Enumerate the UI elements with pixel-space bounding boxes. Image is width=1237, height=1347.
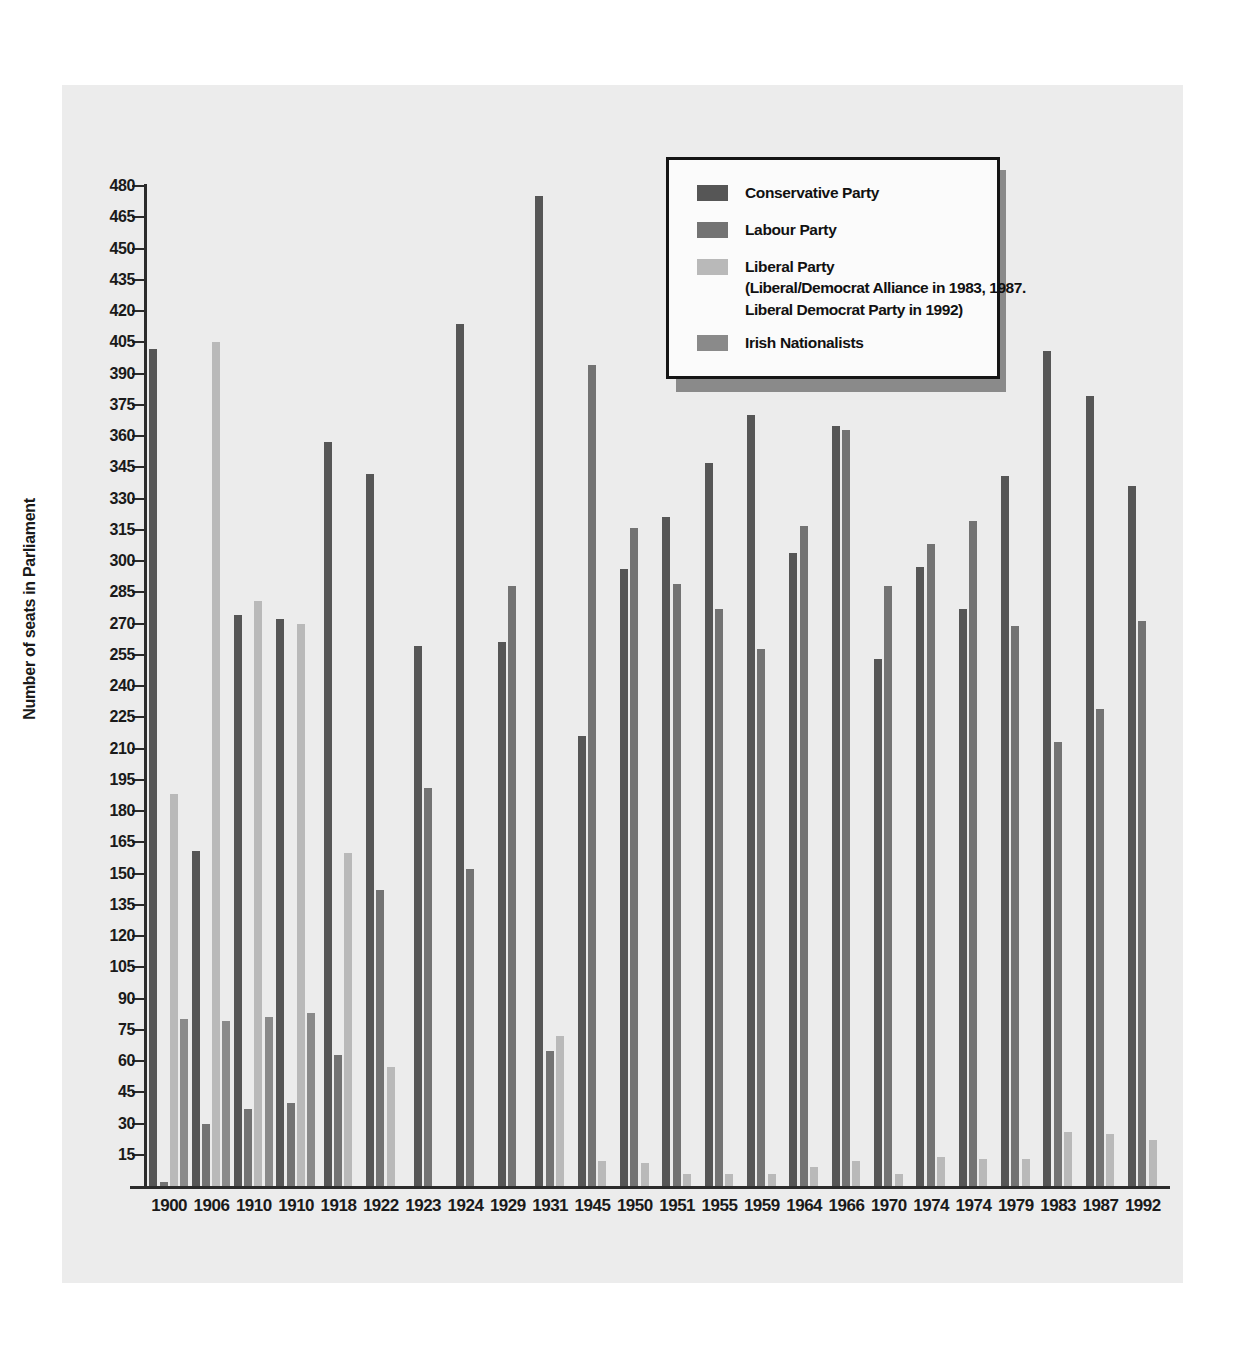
y-tick-label: 120	[110, 927, 136, 945]
bar-conservative-1950	[620, 569, 628, 1186]
y-tick-label: 300	[110, 552, 136, 570]
legend-label-labour: Labour Party	[745, 219, 836, 240]
bar-conservative-1959	[747, 415, 755, 1186]
bar-labour-1924	[466, 869, 474, 1186]
bar-labour-1983	[1054, 742, 1062, 1186]
x-tick-label: 1931	[532, 1196, 568, 1216]
bar-liberal-1918	[344, 853, 352, 1186]
bar-conservative-1918	[324, 442, 332, 1186]
bar-liberal-1945	[598, 1161, 606, 1186]
y-tick-label: 60	[118, 1052, 135, 1070]
x-tick-label: 1959	[744, 1196, 780, 1216]
legend-swatch-conservative-icon	[697, 185, 728, 201]
bar-liberal-1950	[641, 1163, 649, 1186]
bar-labour-1950	[630, 528, 638, 1186]
bar-liberal-1974	[937, 1157, 945, 1186]
bar-labour-1918	[334, 1055, 342, 1186]
x-tick-label: 1970	[871, 1196, 907, 1216]
bar-conservative-1929	[498, 642, 506, 1186]
x-tick-label: 1983	[1040, 1196, 1076, 1216]
legend-item-irish-nationalists[interactable]: Irish Nationalists	[697, 332, 864, 353]
bar-irish-1910	[307, 1013, 315, 1186]
y-tick-label: 450	[110, 240, 136, 258]
bar-liberal-1964	[810, 1167, 818, 1186]
bar-conservative-1983	[1043, 351, 1051, 1186]
x-tick-label: 1945	[575, 1196, 611, 1216]
x-tick-label: 1955	[702, 1196, 738, 1216]
x-tick-label: 1910	[278, 1196, 314, 1216]
bar-irish-1900	[180, 1019, 188, 1186]
bar-conservative-1910	[234, 615, 242, 1186]
y-tick-label: 315	[110, 521, 136, 539]
x-tick-label: 1974	[956, 1196, 992, 1216]
bar-labour-1906	[202, 1124, 210, 1187]
y-tick-label: 405	[110, 333, 136, 351]
y-tick-label: 30	[118, 1115, 135, 1133]
y-tick-label: 180	[110, 802, 136, 820]
legend-label-liberal: Liberal Party	[745, 256, 1026, 277]
bar-liberal-1910	[297, 624, 305, 1187]
bar-liberal-1959	[768, 1174, 776, 1187]
bar-labour-1974	[969, 521, 977, 1186]
legend-note-liberal-line2: Liberal Democrat Party in 1992)	[745, 299, 1026, 320]
bar-labour-1951	[673, 584, 681, 1186]
legend-item-liberal[interactable]: Liberal Party (Liberal/Democrat Alliance…	[697, 256, 1026, 320]
y-tick-label: 135	[110, 896, 136, 914]
y-tick-label: 270	[110, 615, 136, 633]
bar-liberal-1966	[852, 1161, 860, 1186]
x-tick-label: 1964	[786, 1196, 822, 1216]
bar-labour-1974	[927, 544, 935, 1186]
bar-labour-1923	[424, 788, 432, 1186]
x-tick-label: 1906	[194, 1196, 230, 1216]
bar-liberal-1970	[895, 1174, 903, 1187]
bar-liberal-1983	[1064, 1132, 1072, 1186]
bar-conservative-1951	[662, 517, 670, 1186]
y-tick-label: 90	[118, 990, 135, 1008]
y-tick-label: 480	[110, 177, 136, 195]
chart-page: Number of seats in Parliament 4804654504…	[0, 0, 1237, 1347]
chart-legend: Conservative Party Labour Party Liberal …	[666, 157, 1000, 379]
y-tick-label: 240	[110, 677, 136, 695]
bar-liberal-1979	[1022, 1159, 1030, 1186]
y-tick-label: 165	[110, 833, 136, 851]
y-tick-label: 150	[110, 865, 136, 883]
bar-labour-1970	[884, 586, 892, 1186]
bar-conservative-1910	[276, 619, 284, 1186]
bar-liberal-1955	[725, 1174, 733, 1187]
bar-labour-1910	[244, 1109, 252, 1186]
y-tick-label: 105	[110, 958, 136, 976]
bar-liberal-1922	[387, 1067, 395, 1186]
bar-liberal-1900	[170, 794, 178, 1186]
y-tick-label: 420	[110, 302, 136, 320]
x-tick-label: 1929	[490, 1196, 526, 1216]
x-tick-label: 1900	[151, 1196, 187, 1216]
y-tick-label: 75	[118, 1021, 135, 1039]
bar-labour-1931	[546, 1051, 554, 1186]
bar-liberal-1906	[212, 342, 220, 1186]
bar-conservative-1974	[916, 567, 924, 1186]
bar-liberal-1951	[683, 1174, 691, 1187]
legend-label-irish-nationalists: Irish Nationalists	[745, 332, 864, 353]
bar-conservative-1900	[149, 349, 157, 1187]
bar-conservative-1931	[535, 196, 543, 1186]
bar-labour-1964	[800, 526, 808, 1186]
bar-liberal-1931	[556, 1036, 564, 1186]
x-tick-label: 1910	[236, 1196, 272, 1216]
bar-labour-1992	[1138, 621, 1146, 1186]
y-axis-label: Number of seats in Parliament	[21, 459, 39, 759]
y-tick-label: 45	[118, 1083, 135, 1101]
x-tick-label: 1950	[617, 1196, 653, 1216]
bar-conservative-1979	[1001, 476, 1009, 1186]
bar-conservative-1966	[832, 426, 840, 1186]
bar-conservative-1924	[456, 324, 464, 1187]
legend-swatch-labour-icon	[697, 222, 728, 238]
legend-swatch-liberal-icon	[697, 259, 728, 275]
bar-conservative-1974	[959, 609, 967, 1186]
y-tick-label: 285	[110, 583, 136, 601]
bar-labour-1945	[588, 365, 596, 1186]
legend-item-labour[interactable]: Labour Party	[697, 219, 836, 240]
x-tick-label: 1918	[321, 1196, 357, 1216]
y-tick-label: 375	[110, 396, 136, 414]
x-tick-label: 1992	[1125, 1196, 1161, 1216]
legend-item-conservative[interactable]: Conservative Party	[697, 182, 879, 203]
